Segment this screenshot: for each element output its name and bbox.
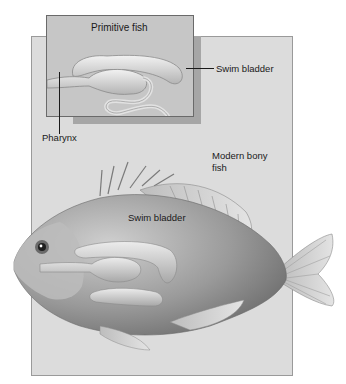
- modern-bony-fish-illustration: [0, 0, 346, 384]
- modern-swim-bladder-label: Swim bladder: [128, 212, 186, 223]
- modern-fish-title-line1: Modern bony: [212, 150, 267, 161]
- modern-fish-title-line2: fish: [212, 162, 227, 173]
- pharynx-label: Pharynx: [42, 132, 77, 143]
- primitive-swim-bladder-label: Swim bladder: [216, 63, 274, 74]
